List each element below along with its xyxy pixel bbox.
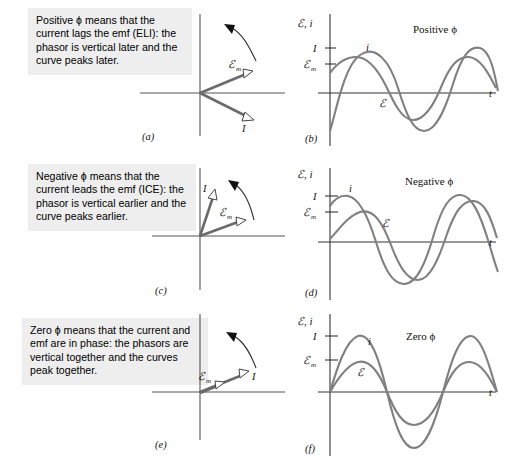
rotation-arrow-head-e — [226, 332, 237, 342]
phasor-diagram-c: I ℰ m — [152, 168, 285, 290]
emf-phasor-sub-a: m — [236, 65, 241, 73]
emf-curve-b — [330, 57, 496, 120]
curve-label-current-f: i — [368, 336, 371, 347]
panel-label-f: (f) — [305, 443, 315, 455]
figure-row-positive: Positive ϕ means that the current lags t… — [0, 0, 521, 154]
emf-phasor-label-c: ℰ — [219, 206, 227, 218]
figure-row-zero: Zero ϕ means that the current and emf ar… — [0, 308, 521, 462]
emf-phasor-arrow-a — [200, 74, 246, 93]
emf-phasor-sub-c: m — [227, 213, 232, 221]
emf-phasor-label-a: ℰ — [228, 58, 236, 70]
figure-row-negative: Negative ϕ means that the current leads … — [0, 154, 521, 308]
emf-phasor-head-c — [236, 217, 246, 226]
curve-label-emf-f: ℰ — [357, 366, 365, 378]
current-phasor-label-a: I — [241, 123, 246, 134]
emf-phasor-head-a — [243, 69, 253, 78]
row-negative-graphics: I ℰ m (c) ℰ, i I ℰ m t i ℰ — [0, 154, 521, 308]
figure-root: Positive ϕ means that the current lags t… — [0, 0, 521, 462]
tick-label-emf-d: ℰ — [303, 206, 311, 218]
tick-label-emf-sub-f: m — [311, 361, 316, 369]
panel-label-b: (b) — [305, 133, 318, 145]
phasor-diagram-e: ℰ m I — [152, 314, 285, 440]
phasor-diagram-a: ℰ m I — [140, 14, 285, 136]
tick-label-I-d: I — [312, 191, 317, 202]
rotation-arrow-head-c — [228, 180, 239, 191]
panel-label-a: (a) — [142, 131, 155, 143]
current-phasor-head-c — [208, 189, 217, 200]
waveform-graph-d: ℰ, i I ℰ m t i ℰ Negative ϕ — [297, 168, 498, 300]
graph-title-f: Zero ϕ — [406, 330, 436, 342]
curve-label-current-b: i — [366, 42, 369, 53]
panel-label-e: (e) — [155, 439, 167, 451]
rotation-arc-a — [232, 28, 256, 61]
emf-phasor-arrow-c — [200, 222, 238, 236]
graph-title-d: Negative ϕ — [405, 175, 453, 187]
row-zero-graphics: ℰ m I (e) ℰ, i I ℰ m t i ℰ — [0, 308, 521, 462]
waveform-graph-b: ℰ, i I ℰ m t i ℰ Positive ϕ — [297, 14, 498, 146]
tick-label-emf-sub-d: m — [311, 213, 316, 221]
panel-label-c: (c) — [155, 285, 167, 297]
current-phasor-head-e — [239, 369, 249, 378]
current-phasor-arrow-a — [200, 93, 246, 116]
rotation-arc-e — [234, 336, 256, 368]
emf-phasor-label-e: ℰ — [198, 370, 206, 382]
tick-label-I-f: I — [312, 331, 317, 342]
current-phasor-arrow-c — [200, 197, 213, 236]
curve-label-emf-b: ℰ — [379, 97, 387, 109]
emf-curve-f — [330, 362, 497, 425]
rotation-arrow-head-a — [224, 24, 235, 34]
tick-label-emf-b: ℰ — [303, 58, 311, 70]
y-axis-label-f: ℰ, i — [297, 315, 313, 327]
current-curve-b — [330, 48, 498, 131]
tick-label-emf-sub-b: m — [311, 65, 316, 73]
graph-title-b: Positive ϕ — [413, 23, 457, 35]
curve-label-current-d: i — [349, 183, 352, 194]
current-phasor-head-a — [242, 112, 254, 121]
current-curve-d — [330, 195, 498, 284]
row-positive-graphics: ℰ m I (a) ℰ, i I ℰ m t i ℰ — [0, 0, 521, 154]
tick-label-emf-f: ℰ — [303, 354, 311, 366]
emf-phasor-head-e — [215, 381, 225, 389]
tick-label-I-b: I — [312, 43, 317, 54]
current-phasor-label-e: I — [251, 371, 256, 382]
rotation-arc-c — [236, 185, 254, 220]
emf-curve-d — [330, 201, 497, 280]
curve-label-emf-d: ℰ — [382, 217, 390, 229]
panel-label-d: (d) — [305, 287, 318, 299]
waveform-graph-f: ℰ, i I ℰ m t i ℰ Zero ϕ — [297, 314, 497, 456]
y-axis-label-d: ℰ, i — [297, 168, 313, 180]
y-axis-label-b: ℰ, i — [297, 17, 313, 29]
emf-phasor-sub-e: m — [206, 377, 211, 385]
current-phasor-label-c: I — [202, 183, 207, 194]
